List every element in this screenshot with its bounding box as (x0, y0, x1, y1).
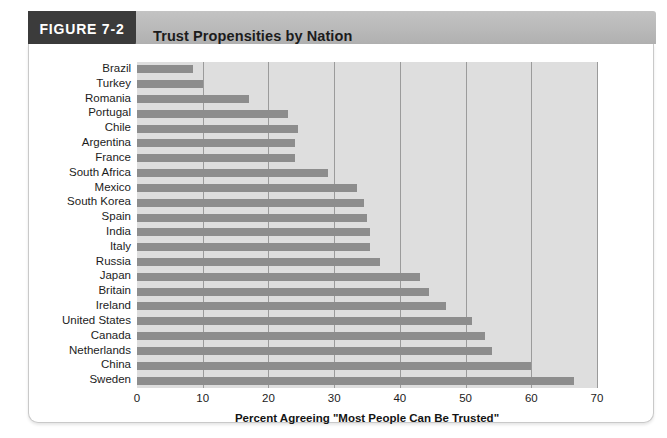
bar-row: Canada (137, 329, 597, 344)
figure-title: Trust Propensities by Nation (153, 28, 352, 44)
bar (137, 332, 485, 340)
bar (137, 80, 203, 88)
category-label: Sweden (89, 372, 131, 387)
bar-row: United States (137, 314, 597, 329)
bar-row: Italy (137, 240, 597, 255)
bar-row: Romania (137, 92, 597, 107)
bar-row: South Africa (137, 166, 597, 181)
x-tick-label: 70 (591, 392, 604, 404)
category-label: Brazil (102, 61, 131, 76)
bar (137, 184, 357, 192)
bar (137, 65, 193, 73)
category-label: Chile (105, 120, 131, 135)
category-label: Turkey (96, 76, 131, 91)
bar (137, 302, 446, 310)
category-label: South Korea (67, 194, 131, 209)
category-label: Romania (85, 91, 131, 106)
bar-row: Russia (137, 255, 597, 270)
bar-row: Ireland (137, 299, 597, 314)
bar-row: Britain (137, 284, 597, 299)
bar (137, 243, 370, 251)
bar (137, 139, 295, 147)
x-tick-label: 30 (328, 392, 341, 404)
category-label: Portugal (88, 105, 131, 120)
bar (137, 258, 380, 266)
category-label: Italy (110, 239, 131, 254)
category-label: United States (62, 313, 131, 328)
bar-row: China (137, 358, 597, 373)
bar (137, 110, 288, 118)
category-label: South Africa (69, 165, 131, 180)
x-tick-label: 60 (525, 392, 538, 404)
bar-row: Chile (137, 121, 597, 136)
category-label: Canada (91, 328, 131, 343)
x-tick-label: 50 (459, 392, 472, 404)
figure-container: Trust Propensities by Nation FIGURE 7-2 … (0, 0, 667, 438)
bar-row: Turkey (137, 77, 597, 92)
bar (137, 169, 328, 177)
bar-chart: BrazilTurkeyRomaniaPortugalChileArgentin… (29, 44, 655, 423)
bar-row: Portugal (137, 106, 597, 121)
category-label: China (101, 357, 131, 372)
x-axis-title: Percent Agreeing "Most People Can Be Tru… (137, 412, 597, 424)
category-label: Spain (102, 209, 131, 224)
bar (137, 228, 370, 236)
bar (137, 347, 492, 355)
bar-row: Sweden (137, 373, 597, 388)
bar (137, 288, 429, 296)
bar (137, 214, 367, 222)
bar (137, 125, 298, 133)
bar (137, 377, 574, 385)
category-label: Mexico (95, 180, 131, 195)
category-label: Argentina (82, 135, 131, 150)
bar-row: Netherlands (137, 344, 597, 359)
x-tick-label: 10 (196, 392, 209, 404)
bar (137, 199, 364, 207)
x-tick-label: 40 (393, 392, 406, 404)
category-label: Ireland (96, 298, 131, 313)
category-label: India (106, 224, 131, 239)
x-tick-label: 20 (262, 392, 275, 404)
plot-area: BrazilTurkeyRomaniaPortugalChileArgentin… (137, 62, 598, 388)
bar-row: South Korea (137, 195, 597, 210)
bar (137, 317, 472, 325)
category-label: Russia (96, 254, 131, 269)
bar-row: India (137, 225, 597, 240)
bar-row: Japan (137, 269, 597, 284)
bar-row: France (137, 151, 597, 166)
bar-row: Argentina (137, 136, 597, 151)
x-tick-label: 0 (134, 392, 140, 404)
category-label: Japan (100, 268, 131, 283)
bar-row: Spain (137, 210, 597, 225)
figure-panel: BrazilTurkeyRomaniaPortugalChileArgentin… (28, 44, 654, 423)
bar (137, 154, 295, 162)
category-label: Britain (98, 283, 131, 298)
bar-row: Mexico (137, 181, 597, 196)
bar (137, 95, 249, 103)
category-label: Netherlands (69, 343, 131, 358)
bar (137, 273, 420, 281)
bar (137, 362, 531, 370)
bar-row: Brazil (137, 62, 597, 77)
figure-number-label: FIGURE 7-2 (28, 21, 136, 37)
category-label: France (95, 150, 131, 165)
